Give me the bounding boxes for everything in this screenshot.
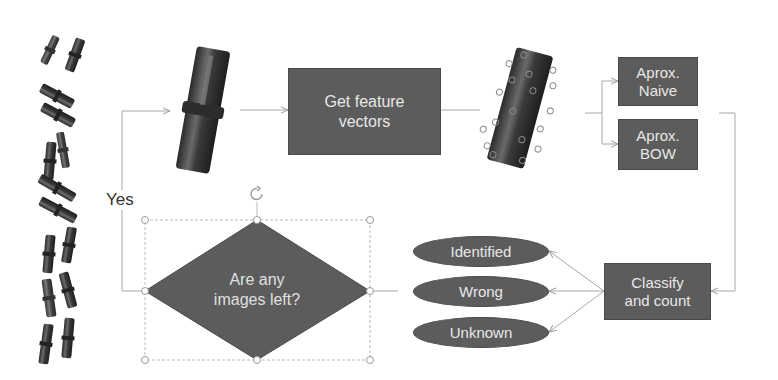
aprox-bow-label: Aprox. BOW — [636, 127, 679, 163]
classify-to-unknown-arrow — [549, 291, 604, 332]
single-pin-image — [172, 45, 235, 174]
resize-handle-n — [254, 217, 261, 224]
split-to-naive-arrow — [602, 81, 618, 113]
resize-handle-s — [254, 357, 261, 364]
aprox-naive-box[interactable]: Aprox. Naive — [618, 57, 698, 106]
yes-label: Yes — [106, 190, 134, 210]
aprox-bow-box[interactable]: Aprox. BOW — [618, 119, 698, 170]
approx-to-classify-arrow — [711, 113, 735, 291]
classify-to-identified-arrow — [549, 251, 604, 291]
outcome-wrong[interactable]: Wrong — [413, 276, 549, 307]
resize-handle-e — [367, 288, 374, 295]
get-feature-vectors-box[interactable]: Get feature vectors — [288, 68, 441, 155]
resize-handle-sw — [142, 357, 149, 364]
input-pins-image — [36, 34, 86, 365]
decision-label: Are any images left? — [187, 270, 327, 310]
outcome-unknown-label: Unknown — [450, 324, 513, 341]
outcome-identified[interactable]: Identified — [413, 236, 549, 267]
split-to-bow-arrow — [602, 113, 618, 144]
outcome-unknown[interactable]: Unknown — [413, 317, 549, 348]
resize-handle-w — [142, 288, 149, 295]
classify-and-count-label: Classify and count — [625, 274, 691, 310]
resize-handle-se — [367, 357, 374, 364]
resize-handle-ne — [367, 217, 374, 224]
pin-with-keypoints-image — [473, 43, 567, 172]
resize-handle-nw — [142, 217, 149, 224]
classify-and-count-box[interactable]: Classify and count — [604, 263, 711, 320]
get-feature-vectors-label: Get feature vectors — [324, 92, 404, 130]
outcome-wrong-label: Wrong — [459, 283, 503, 300]
outcome-identified-label: Identified — [451, 243, 512, 260]
rotate-handle-icon[interactable] — [251, 186, 262, 199]
aprox-naive-label: Aprox. Naive — [636, 64, 679, 100]
